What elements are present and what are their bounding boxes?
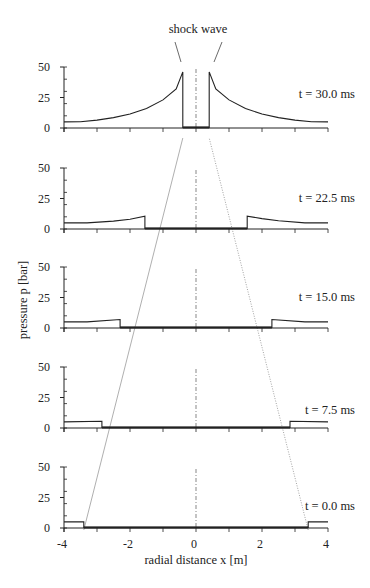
y-tick-label: 0 <box>44 121 50 135</box>
time-label: t = 15.0 ms <box>299 290 355 304</box>
y-tick-label: 50 <box>38 161 50 175</box>
annotation-pointer-right <box>214 42 222 62</box>
time-label: t = 30.0 ms <box>299 87 355 101</box>
x-axis-title: radial distance x [m] <box>144 553 247 567</box>
shock-trajectory-left <box>84 138 183 530</box>
y-tick-label: 25 <box>38 391 50 405</box>
y-tick-label: 0 <box>44 421 50 435</box>
y-tick-label: 0 <box>44 521 50 535</box>
y-tick-label: 50 <box>38 360 50 374</box>
shock-wave-annotation: shock wave <box>169 22 228 36</box>
time-label: t = 0.0 ms <box>305 499 355 513</box>
y-tick-label: 50 <box>38 460 50 474</box>
y-tick-label: 50 <box>38 260 50 274</box>
panel-1: 02550t = 22.5 ms <box>38 161 355 236</box>
x-tick-label: 4 <box>323 537 329 551</box>
x-tick-label: -4 <box>57 537 67 551</box>
panel-2: 02550t = 15.0 ms <box>38 260 355 335</box>
y-tick-label: 25 <box>38 91 50 105</box>
y-tick-label: 0 <box>44 222 50 236</box>
chart-canvas: 02550t = 30.0 ms02550t = 22.5 ms02550t =… <box>0 0 370 588</box>
y-axis-title: pressure p [bar] <box>16 261 30 339</box>
panel-3: 02550t = 7.5 ms <box>38 360 355 435</box>
x-tick-label: 2 <box>257 537 263 551</box>
annotation-pointer-left <box>175 42 181 62</box>
panel-0: 02550t = 30.0 ms <box>38 60 355 135</box>
y-tick-label: 25 <box>38 491 50 505</box>
x-tick-label: -2 <box>123 537 133 551</box>
y-tick-label: 25 <box>38 192 50 206</box>
shock-wave-pressure-figure: 02550t = 30.0 ms02550t = 22.5 ms02550t =… <box>0 0 370 588</box>
y-tick-label: 50 <box>38 60 50 74</box>
time-label: t = 22.5 ms <box>299 191 355 205</box>
time-label: t = 7.5 ms <box>305 403 355 417</box>
y-tick-label: 0 <box>44 321 50 335</box>
x-tick-label: 0 <box>191 537 197 551</box>
shock-trajectory-right <box>209 138 308 530</box>
y-tick-label: 25 <box>38 291 50 305</box>
